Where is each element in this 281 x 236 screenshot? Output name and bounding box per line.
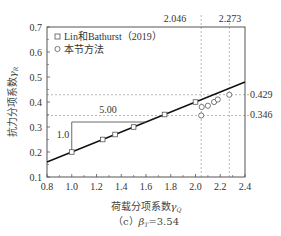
circle-marker <box>227 92 232 97</box>
square-marker <box>131 125 136 130</box>
square-marker <box>69 150 74 155</box>
x-tick-label: 1.2 <box>90 181 103 192</box>
legend-label-lin: Lin和Bathurst（2019） <box>64 31 162 42</box>
vline-label-2: 2.273 <box>219 13 242 24</box>
y-axis-label: 抗力分项系数γR <box>6 66 19 137</box>
axis-ticks: 0.81.01.21.41.61.82.02.22.40.10.20.30.40… <box>30 22 252 193</box>
legend-circle-icon <box>55 46 60 51</box>
y-tick-label: 0.2 <box>30 147 43 158</box>
x-tick-label: 2.0 <box>189 181 202 192</box>
hline-label-1: 0.429 <box>250 89 273 100</box>
x-tick-label: 2.4 <box>239 181 252 192</box>
circle-marker <box>215 97 220 102</box>
circle-marker <box>199 113 204 118</box>
x-tick-label: 1.0 <box>66 181 79 192</box>
circle-marker <box>205 103 210 108</box>
y-tick-label: 0.6 <box>30 47 43 58</box>
x-axis-label: 荷载分项系数γQ <box>111 200 182 213</box>
x-tick-label: 1.4 <box>115 181 128 192</box>
vline-label-1: 2.046 <box>164 13 187 24</box>
square-marker <box>193 100 198 105</box>
chart: 0.81.01.21.41.61.82.02.22.40.10.20.30.40… <box>0 0 281 236</box>
x-tick-label: 0.8 <box>41 181 54 192</box>
y-tick-label: 0.4 <box>30 97 43 108</box>
circle-marker <box>199 104 204 109</box>
slope-run-label: 5.00 <box>99 104 117 115</box>
legend-label-method: 本节方法 <box>64 43 104 55</box>
y-tick-label: 0.3 <box>30 122 43 133</box>
x-tick-label: 2.2 <box>214 181 227 192</box>
y-tick-label: 0.7 <box>30 22 43 33</box>
square-marker <box>100 137 105 142</box>
square-marker <box>113 132 118 137</box>
figure-caption: （c）βT=3.54 <box>113 216 179 228</box>
square-marker <box>162 112 167 117</box>
y-tick-label: 0.1 <box>30 172 43 183</box>
data-markers <box>69 92 231 154</box>
legend-square-icon <box>55 34 60 39</box>
x-tick-label: 1.8 <box>165 181 178 192</box>
hline-label-2: 0.346 <box>250 109 273 120</box>
x-tick-label: 1.6 <box>140 181 153 192</box>
y-tick-label: 0.5 <box>30 72 43 83</box>
legend: Lin和Bathurst（2019） 本节方法 <box>55 31 162 55</box>
slope-rise-label: 1.0 <box>57 129 70 140</box>
